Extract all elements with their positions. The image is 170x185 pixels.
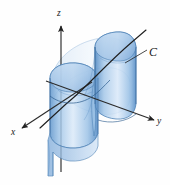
- curve-label-c: C: [149, 46, 157, 58]
- figure-svg: [0, 0, 170, 185]
- figure-container: z y x C: [0, 0, 170, 185]
- axis-label-x: x: [11, 128, 15, 138]
- axis-label-y: y: [157, 117, 161, 127]
- axis-label-z: z: [57, 9, 61, 19]
